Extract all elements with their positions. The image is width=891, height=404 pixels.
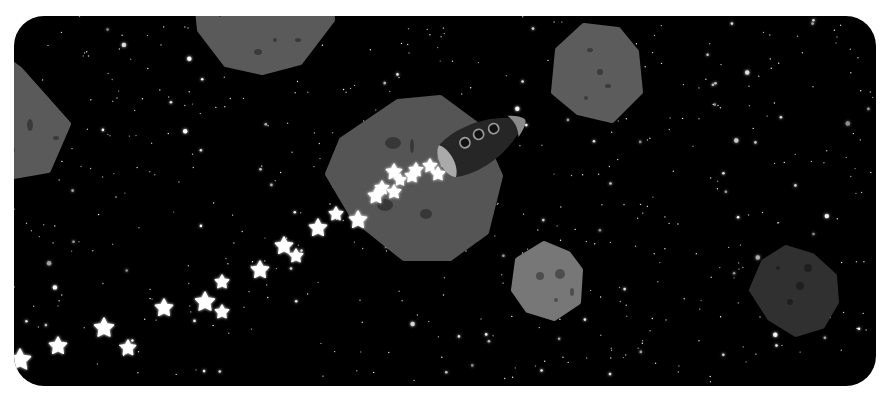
star-dot (47, 261, 51, 265)
star-dot (295, 300, 298, 303)
star-dot (850, 176, 851, 177)
star-dot (112, 79, 113, 80)
star-dot (774, 163, 775, 164)
star-dot (83, 55, 84, 56)
star-dot (192, 153, 193, 154)
star-dot (626, 305, 627, 306)
star-dot (599, 229, 602, 232)
trail-star-icon (120, 340, 135, 355)
star-dot (655, 363, 656, 364)
star-dot (665, 319, 666, 320)
star-dot (265, 123, 268, 126)
star-dot (88, 55, 89, 56)
star-dot (440, 36, 441, 37)
star-dot (72, 241, 75, 244)
star-dot (452, 61, 453, 62)
star-dot (192, 103, 193, 104)
star-dot (698, 87, 699, 88)
star-dot (45, 324, 48, 327)
star-dot (267, 297, 268, 298)
star-dot (116, 97, 117, 98)
star-dot (749, 105, 750, 106)
star-dot (610, 242, 611, 243)
star-dot (769, 34, 770, 35)
star-dot (738, 268, 739, 269)
star-dot (18, 373, 19, 374)
star-dot (354, 85, 355, 86)
star-dot (664, 216, 665, 217)
star-dot (854, 168, 855, 169)
crater-icon (536, 272, 544, 280)
star-dot (437, 47, 438, 48)
star-dot (799, 351, 800, 352)
star-dot (184, 26, 185, 27)
star-dot (138, 351, 139, 352)
star-dot (600, 335, 601, 336)
star-dot (649, 330, 650, 331)
star-dot (307, 92, 308, 93)
star-dot (71, 148, 72, 149)
star-dot (522, 252, 523, 253)
star-dot (743, 346, 744, 347)
star-dot (684, 298, 685, 299)
star-dot (698, 118, 699, 119)
star-dot (683, 84, 684, 85)
star-dot (275, 180, 276, 181)
star-dot (190, 311, 191, 312)
star-dot (465, 250, 466, 251)
star-dot (43, 224, 44, 225)
star-dot (562, 357, 563, 358)
star-dot (163, 26, 164, 27)
star-dot (189, 305, 190, 306)
star-dot (778, 63, 779, 64)
star-dot (709, 43, 710, 44)
star-dot (590, 290, 591, 291)
trail-star-icon (251, 261, 268, 277)
star-dot (124, 192, 125, 193)
star-dot (766, 115, 767, 116)
star-dot (149, 171, 150, 172)
star-dot (350, 88, 351, 89)
star-dot (748, 214, 749, 215)
star-dot (850, 49, 851, 50)
star-dot (470, 87, 471, 88)
star-dot (795, 154, 796, 155)
asteroid-top-center (196, 16, 332, 72)
star-dot (57, 305, 58, 306)
star-dot (639, 141, 642, 144)
star-dot (742, 267, 743, 268)
star-dot (107, 73, 108, 74)
star-dot (147, 35, 148, 36)
star-dot (168, 96, 169, 97)
star-dot (728, 247, 729, 248)
star-dot (159, 89, 160, 90)
star-dot (242, 231, 243, 232)
star-dot (291, 152, 292, 153)
star-dot (762, 212, 763, 213)
star-dot (497, 203, 498, 204)
star-dot (846, 121, 850, 125)
star-dot (492, 335, 493, 336)
star-dot (720, 64, 721, 65)
star-dot (58, 300, 59, 301)
star-dot (200, 225, 203, 228)
star-dot (494, 235, 495, 236)
star-dot (717, 188, 718, 189)
star-dot (54, 225, 55, 226)
star-dot (458, 335, 461, 338)
star-dot (824, 337, 827, 340)
star-dot (652, 52, 653, 53)
star-dot (107, 134, 108, 135)
star-dot (322, 45, 323, 46)
star-dot (345, 92, 346, 93)
crater-icon (597, 69, 603, 75)
star-dot (722, 172, 725, 175)
star-dot (102, 176, 103, 177)
star-dot (711, 277, 712, 278)
star-dot (501, 274, 502, 275)
star-dot (461, 93, 462, 94)
star-dot (539, 327, 540, 328)
star-dot (553, 173, 554, 174)
star-dot (266, 284, 267, 285)
star-dot (794, 184, 797, 187)
